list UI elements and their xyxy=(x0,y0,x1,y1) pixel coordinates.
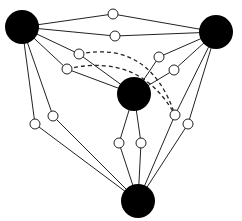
minor-node xyxy=(74,49,84,59)
major-node-D xyxy=(121,184,155,218)
minor-node xyxy=(170,110,180,120)
major-node-C xyxy=(117,77,151,111)
minor-node xyxy=(169,65,179,75)
graph-diagram xyxy=(0,0,242,221)
minor-node xyxy=(108,9,118,19)
minor-node xyxy=(183,119,193,129)
edges-layer xyxy=(22,14,216,201)
major-node-A xyxy=(5,10,39,44)
edge xyxy=(53,116,138,201)
minor-node xyxy=(136,138,146,148)
minor-node xyxy=(62,64,72,74)
minor-node xyxy=(110,31,120,41)
minor-node xyxy=(30,119,40,129)
minor-node xyxy=(114,138,124,148)
minor-node xyxy=(48,111,58,121)
minor-node xyxy=(154,52,164,62)
edge xyxy=(35,124,138,201)
major-node-B xyxy=(199,15,233,49)
